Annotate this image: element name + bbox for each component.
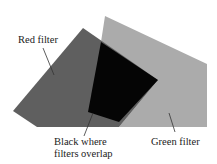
red-filter-label: Red filter (18, 34, 58, 45)
overlap-label-line2: filters overlap (54, 148, 113, 159)
green-filter-label: Green filter (151, 136, 200, 147)
overlap-label-line1: Black where (54, 136, 107, 147)
filter-overlap-diagram: Red filter Black where filters overlap G… (0, 0, 217, 164)
